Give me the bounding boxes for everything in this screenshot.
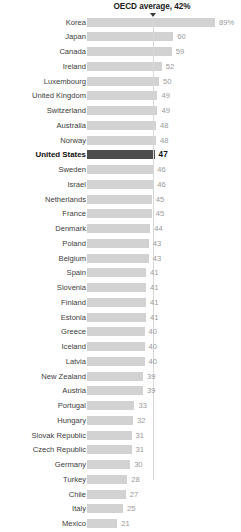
average-reference-line bbox=[153, 16, 154, 480]
row-value-label: 41 bbox=[150, 283, 158, 292]
chart-row: Austria39 bbox=[0, 385, 241, 400]
row-category-label: Switzerland bbox=[0, 106, 86, 115]
row-value-label: 59 bbox=[176, 47, 184, 56]
row-value-label: 40 bbox=[149, 357, 157, 366]
row-value-label: 28 bbox=[131, 475, 139, 484]
bar bbox=[87, 254, 149, 263]
chart-row: Canada59 bbox=[0, 46, 241, 61]
bar bbox=[87, 77, 159, 86]
row-value-label: 39 bbox=[147, 386, 155, 395]
row-category-label: Mexico bbox=[0, 519, 86, 528]
bar bbox=[87, 18, 215, 27]
row-category-label: Austria bbox=[0, 386, 86, 395]
bar bbox=[87, 283, 146, 292]
row-category-label: Hungary bbox=[0, 416, 86, 425]
row-value-label: 41 bbox=[150, 298, 158, 307]
row-value-label: 60 bbox=[177, 32, 185, 41]
row-category-label: Netherlands bbox=[0, 195, 86, 204]
row-category-label: Portugal bbox=[0, 401, 86, 410]
chart-row: Slovenia41 bbox=[0, 282, 241, 297]
chart-row: Netherlands45 bbox=[0, 193, 241, 208]
chart-row: Belgium43 bbox=[0, 252, 241, 267]
row-category-label: Estonia bbox=[0, 313, 86, 322]
row-category-label: Luxembourg bbox=[0, 77, 86, 86]
bar bbox=[87, 209, 152, 218]
bar-track bbox=[87, 401, 237, 410]
chart-row: Turkey28 bbox=[0, 473, 241, 488]
chart-row: Finland41 bbox=[0, 296, 241, 311]
chart-rows: Korea89%Japan60Canada59Ireland52Luxembou… bbox=[0, 16, 241, 532]
row-value-label: 40 bbox=[149, 327, 157, 336]
bar bbox=[87, 62, 162, 71]
row-category-label: Spain bbox=[0, 268, 86, 277]
row-category-label: Israel bbox=[0, 180, 86, 189]
chart-row: Israel46 bbox=[0, 178, 241, 193]
row-category-label: Ireland bbox=[0, 62, 86, 71]
bar-track bbox=[87, 445, 237, 454]
bar-track bbox=[87, 342, 237, 351]
chart-row: Portugal33 bbox=[0, 400, 241, 415]
chart-row: United Kingdom49 bbox=[0, 90, 241, 105]
row-value-label: 41 bbox=[150, 268, 158, 277]
row-category-label: Australia bbox=[0, 121, 86, 130]
bar bbox=[87, 298, 146, 307]
row-category-label: United States bbox=[0, 150, 86, 159]
chart-row: Estonia41 bbox=[0, 311, 241, 326]
row-category-label: Japan bbox=[0, 32, 86, 41]
row-value-label: 40 bbox=[149, 342, 157, 351]
bar-track bbox=[87, 18, 237, 27]
chart-row: Japan60 bbox=[0, 31, 241, 46]
chart-row: Germany30 bbox=[0, 459, 241, 474]
bar-track bbox=[87, 313, 237, 322]
row-value-label: 25 bbox=[127, 504, 135, 513]
bar bbox=[87, 401, 134, 410]
chart-row: Ireland52 bbox=[0, 60, 241, 75]
bar-track bbox=[87, 519, 237, 528]
row-category-label: France bbox=[0, 209, 86, 218]
chart-row: Korea89% bbox=[0, 16, 241, 31]
chart-row: Greece40 bbox=[0, 326, 241, 341]
row-value-label: 46 bbox=[157, 165, 165, 174]
row-value-label: 45 bbox=[156, 195, 164, 204]
bar-track bbox=[87, 357, 237, 366]
row-category-label: Finland bbox=[0, 298, 86, 307]
row-category-label: Iceland bbox=[0, 342, 86, 351]
row-value-label: 43 bbox=[153, 239, 161, 248]
row-value-label: 45 bbox=[156, 209, 164, 218]
row-value-label: 50 bbox=[163, 77, 171, 86]
row-value-label: 89% bbox=[219, 18, 234, 27]
bar bbox=[87, 357, 145, 366]
bar bbox=[87, 386, 143, 395]
bar-track bbox=[87, 254, 237, 263]
bar-track bbox=[87, 372, 237, 381]
chart-row: Hungary32 bbox=[0, 414, 241, 429]
row-category-label: Czech Republic bbox=[0, 445, 86, 454]
bar bbox=[87, 268, 146, 277]
chart-row: Slovak Republic31 bbox=[0, 429, 241, 444]
bar bbox=[87, 195, 152, 204]
bar bbox=[87, 224, 150, 233]
row-category-label: Poland bbox=[0, 239, 86, 248]
row-category-label: Sweden bbox=[0, 165, 86, 174]
bar-track bbox=[87, 475, 237, 484]
chart-row: Latvia40 bbox=[0, 355, 241, 370]
bar bbox=[87, 150, 155, 159]
bar bbox=[87, 490, 126, 499]
bar-track bbox=[87, 490, 237, 499]
chart-row: Czech Republic31 bbox=[0, 444, 241, 459]
bar-track bbox=[87, 386, 237, 395]
bar bbox=[87, 239, 149, 248]
row-value-label: 43 bbox=[153, 254, 161, 263]
chart-row: Denmark44 bbox=[0, 223, 241, 238]
chart-row: New Zealand39 bbox=[0, 370, 241, 385]
row-category-label: Latvia bbox=[0, 357, 86, 366]
chart-row: Mexico21 bbox=[0, 518, 241, 532]
bar bbox=[87, 519, 117, 528]
chart-row: Poland43 bbox=[0, 237, 241, 252]
bar bbox=[87, 136, 156, 145]
bar-track bbox=[87, 416, 237, 425]
chart-row: Luxembourg50 bbox=[0, 75, 241, 90]
row-value-label: 31 bbox=[136, 431, 144, 440]
bar-track bbox=[87, 298, 237, 307]
bar-track bbox=[87, 62, 237, 71]
